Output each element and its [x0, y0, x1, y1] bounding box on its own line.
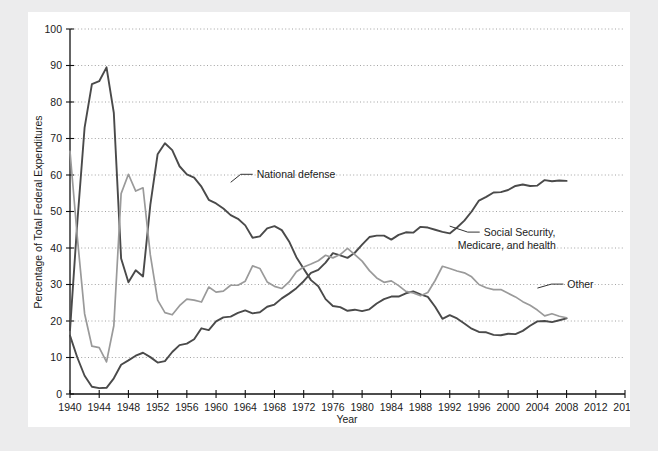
y-tick-label: 80 [50, 96, 62, 108]
annotation-leader-0 [231, 174, 253, 182]
grid-lines [71, 29, 625, 358]
x-tick-label: 1992 [438, 401, 462, 413]
x-tick-label: 1940 [58, 401, 82, 413]
y-tick-label: 90 [50, 59, 62, 71]
x-tick-label: 1960 [204, 401, 228, 413]
x-tick-label: 1968 [263, 401, 287, 413]
series-label-1: Social Security,Medicare, and health [458, 226, 556, 251]
series-label-2: Other [567, 278, 594, 290]
x-tick-label: 1988 [409, 401, 433, 413]
y-tick-label: 30 [50, 278, 62, 290]
x-tick-label: 2016 [613, 401, 630, 413]
series-label-0: National defense [257, 168, 336, 180]
x-tick-label: 1948 [117, 401, 141, 413]
x-tick-label: 1984 [380, 401, 404, 413]
y-tick-label: 70 [50, 132, 62, 144]
series-line-1 [70, 180, 567, 388]
line-chart: 0102030405060708090100 19401944194819521… [28, 12, 630, 427]
x-tick-label: 1972 [292, 401, 316, 413]
y-tick-label: 60 [50, 169, 62, 181]
x-tick-label: 1944 [88, 401, 112, 413]
x-tick-label: 1980 [350, 401, 374, 413]
x-axis-title: Year [336, 413, 358, 425]
y-tick-label: 40 [50, 242, 62, 254]
y-tick-label: 10 [50, 351, 62, 363]
figure-panel: 0102030405060708090100 19401944194819521… [28, 12, 630, 427]
x-tick-label: 2004 [526, 401, 550, 413]
x-tick-label: 1996 [467, 401, 491, 413]
x-tick-label: 1952 [146, 401, 170, 413]
y-tick-label: 100 [44, 23, 62, 35]
x-tick-label: 2000 [496, 401, 520, 413]
clipped-header-text [0, 0, 658, 10]
x-tick-label: 2012 [584, 401, 608, 413]
x-tick-label: 2008 [555, 401, 579, 413]
x-tick-label: 1976 [321, 401, 345, 413]
x-tick-label: 1964 [234, 401, 258, 413]
y-tick-label: 20 [50, 315, 62, 327]
y-axis-title: Percentage of Total Federal Expenditures [32, 115, 44, 308]
y-tick-label: 50 [50, 205, 62, 217]
x-tick-label: 1956 [175, 401, 199, 413]
series-annotations: National defenseSocial Security,Medicare… [231, 168, 594, 290]
y-tick-label: 0 [56, 388, 62, 400]
annotation-leader-2 [537, 284, 563, 288]
